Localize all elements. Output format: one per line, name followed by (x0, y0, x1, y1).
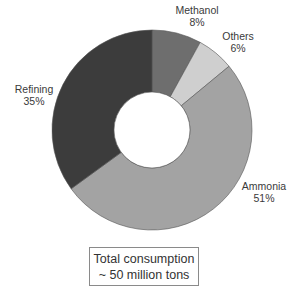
label-refining-name: Refining (4, 83, 64, 95)
label-others-pct: 6% (213, 42, 263, 54)
label-methanol-pct: 8% (167, 16, 227, 28)
label-others-name: Others (213, 30, 263, 42)
label-others: Others 6% (213, 30, 263, 54)
total-consumption-box: Total consumption ~ 50 million tons (89, 247, 199, 286)
label-ammonia-pct: 51% (236, 192, 292, 204)
donut-hole (114, 92, 190, 168)
label-methanol: Methanol 8% (167, 4, 227, 28)
label-refining: Refining 35% (4, 83, 64, 107)
label-ammonia: Ammonia 51% (236, 180, 292, 204)
label-ammonia-name: Ammonia (236, 180, 292, 192)
label-methanol-name: Methanol (167, 4, 227, 16)
total-line-1: Total consumption (90, 251, 198, 267)
total-line-2: ~ 50 million tons (90, 267, 198, 283)
label-refining-pct: 35% (4, 95, 64, 107)
